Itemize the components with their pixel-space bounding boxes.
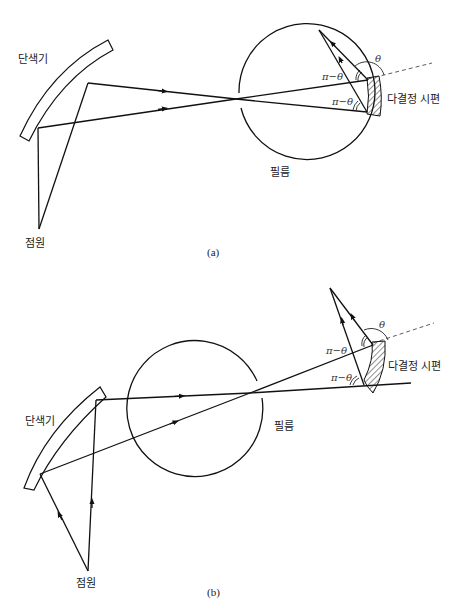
caption-a: (a)	[207, 246, 220, 259]
figure-b: 단색기 점원 필름 다결정 시편 θ π−θ π−θ (b)	[24, 288, 442, 599]
label-pi-minus-theta-upper-a: π−θ	[321, 71, 343, 82]
ray-source-to-mono-b2	[88, 400, 96, 571]
label-monochromator-b: 단색기	[25, 415, 55, 428]
ray-mono-to-focus-2	[38, 99, 236, 128]
label-pi-minus-theta-lower-b: π−θ	[330, 372, 352, 383]
ray-to-crystal-b1	[250, 345, 373, 393]
label-crystal-a: 다결정 시편	[387, 93, 441, 106]
label-theta-a: θ	[375, 53, 381, 64]
ray-source-to-mono-1	[38, 128, 39, 229]
label-crystal-b: 다결정 시편	[388, 360, 442, 373]
ray-through-b2	[250, 383, 411, 393]
label-film-a: 필름	[270, 166, 290, 179]
label-film-b: 필름	[274, 420, 294, 433]
diffraction-diagram: 단색기 점원 필름 다결정 시편 θ π−θ π−θ (a)	[0, 0, 457, 611]
film-circle-b	[127, 341, 264, 477]
caption-b: (b)	[207, 586, 220, 599]
crystal-sample-a	[367, 76, 381, 116]
label-pi-minus-theta-upper-b: π−θ	[325, 345, 347, 356]
diffracted-ray-b2	[330, 288, 364, 385]
label-point-source-b: 점원	[76, 577, 96, 590]
ray-mono-b1	[96, 393, 250, 400]
ray-mono-b2	[40, 393, 250, 474]
figure-a: 단색기 점원 필름 다결정 시편 θ π−θ π−θ (a)	[18, 24, 441, 259]
ray-source-to-mono-b1	[40, 474, 88, 571]
diffracted-ray-b1	[330, 288, 373, 345]
label-monochromator-a: 단색기	[18, 53, 48, 66]
label-pi-minus-theta-lower-a: π−θ	[331, 96, 353, 107]
label-point-source-a: 점원	[25, 237, 45, 250]
label-theta-b: θ	[379, 319, 385, 330]
